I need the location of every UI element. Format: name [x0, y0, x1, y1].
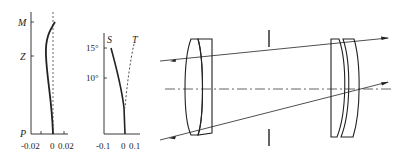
label-m: M: [17, 17, 27, 28]
tick-pos: 0.02: [58, 141, 74, 151]
arrow-icon: [381, 37, 389, 40]
optical-diagram: M Z P -0.02 0 0.02 15° 10° S T -0.1 0 0.…: [0, 0, 401, 156]
label-p: P: [19, 128, 26, 139]
sagittal-curve: [111, 48, 125, 134]
label-s: S: [107, 34, 112, 45]
front-biconvex-lens: [185, 39, 203, 135]
tick-zero: 0: [121, 141, 126, 151]
rear-meniscus-1: [331, 39, 345, 137]
arrow-icon: [381, 82, 389, 85]
tick-15deg: 15°: [86, 43, 99, 53]
label-z: Z: [20, 51, 26, 62]
tick-pos: 0.1: [129, 141, 140, 151]
distortion-curve: [46, 22, 55, 134]
tick-10deg: 10°: [86, 73, 99, 83]
front-cemented-element: [198, 39, 212, 135]
rear-meniscus-2: [341, 39, 359, 137]
lens-layout: [160, 30, 392, 146]
upper-ray: [160, 38, 388, 61]
lower-ray: [160, 82, 388, 140]
tick-neg: -0.02: [21, 141, 40, 151]
tick-neg: -0.1: [96, 141, 110, 151]
astigmatism-plot: 15° 10° S T -0.1 0 0.1: [86, 33, 140, 151]
tangential-curve: [125, 44, 134, 108]
distortion-plot: M Z P -0.02 0 0.02: [17, 12, 74, 151]
label-t: T: [132, 34, 139, 45]
tick-zero: 0: [50, 141, 55, 151]
